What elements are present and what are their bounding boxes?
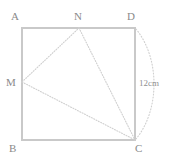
vertex-label-c: C [135, 143, 143, 154]
side-length-label: 12cm [139, 79, 159, 88]
point-label-m: M [6, 77, 16, 88]
geometry-figure: A D C B N M 12cm [0, 0, 175, 162]
point-label-n: N [74, 11, 82, 22]
segment-mc [22, 82, 135, 140]
vertex-dot-m [21, 81, 22, 82]
vertex-label-a: A [11, 11, 19, 22]
vertex-label-d: D [127, 11, 135, 22]
square-abcd [22, 28, 135, 140]
vertex-label-b: B [9, 143, 17, 154]
segment-nc [79, 28, 135, 140]
vertex-dot-n [78, 27, 79, 28]
vertex-dot-c [134, 139, 135, 140]
segment-mn [22, 28, 79, 82]
